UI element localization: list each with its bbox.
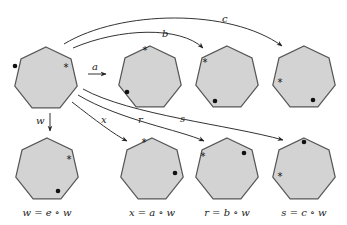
heptagon-b: * bbox=[196, 46, 258, 107]
arrow-c bbox=[64, 18, 282, 46]
star-marker-icon: * bbox=[64, 62, 69, 73]
heptagon-r: * bbox=[196, 138, 258, 199]
heptagon-c: * bbox=[273, 46, 335, 107]
dot-marker-icon bbox=[13, 64, 18, 69]
arrow-label-a: a bbox=[92, 61, 98, 72]
heptagon-shape bbox=[196, 138, 258, 199]
star-marker-icon: * bbox=[67, 154, 72, 165]
star-marker-icon: * bbox=[201, 151, 206, 162]
arrow-label-c: c bbox=[222, 13, 228, 24]
arrow-b bbox=[73, 32, 203, 48]
dot-marker-icon bbox=[311, 98, 316, 103]
heptagon-shape bbox=[16, 138, 78, 199]
star-marker-icon: * bbox=[143, 45, 148, 56]
star-marker-icon: * bbox=[278, 171, 283, 182]
heptagon-w: * bbox=[16, 138, 78, 199]
caption-s: s = c ∘ w bbox=[281, 207, 327, 218]
heptagon-s: * bbox=[273, 138, 335, 199]
dot-marker-icon bbox=[125, 90, 130, 95]
dot-marker-icon bbox=[56, 189, 61, 194]
heptagons: ******** bbox=[13, 45, 336, 199]
caption-r: r = b ∘ w bbox=[204, 207, 250, 218]
star-marker-icon: * bbox=[142, 137, 147, 148]
permutation-diagram: a b c w x r s ******** w = e ∘ w x = a ∘… bbox=[0, 0, 347, 225]
dot-marker-icon bbox=[213, 99, 218, 104]
dot-marker-icon bbox=[242, 151, 247, 156]
heptagon-shape bbox=[119, 46, 181, 107]
heptagon-shape bbox=[196, 46, 258, 107]
arrow-label-r: r bbox=[138, 114, 144, 125]
heptagon-shape bbox=[121, 138, 183, 199]
dot-marker-icon bbox=[173, 171, 178, 176]
heptagon-shape bbox=[15, 47, 77, 108]
arrow-label-s: s bbox=[180, 113, 185, 124]
heptagon-shape bbox=[273, 138, 335, 199]
caption-w: w = e ∘ w bbox=[22, 207, 71, 218]
arrow-label-b: b bbox=[162, 28, 168, 39]
heptagon-x: * bbox=[121, 137, 183, 199]
star-marker-icon: * bbox=[278, 77, 283, 88]
arrow-x bbox=[72, 102, 127, 141]
dot-marker-icon bbox=[302, 140, 307, 145]
heptagon-e: * bbox=[13, 47, 78, 108]
arrow-label-w: w bbox=[36, 115, 45, 126]
arrow-label-x: x bbox=[101, 114, 107, 125]
star-marker-icon: * bbox=[203, 57, 208, 68]
heptagon-a: * bbox=[119, 45, 181, 107]
caption-x: x = a ∘ w bbox=[129, 207, 176, 218]
